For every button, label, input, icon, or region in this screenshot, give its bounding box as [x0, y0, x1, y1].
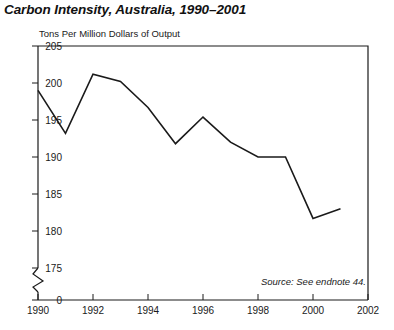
y-tick-label-180: 180: [34, 226, 62, 237]
x-tick-label-2002: 2002: [357, 305, 379, 316]
y-tick-label-205: 205: [34, 41, 62, 52]
x-tick-label-1992: 1992: [82, 305, 104, 316]
y-tick-label-200: 200: [34, 78, 62, 89]
x-axis-ticks: [38, 294, 368, 300]
y-tick-label-195: 195: [34, 115, 62, 126]
carbon-intensity-chart: Carbon Intensity, Australia, 1990–2001 T…: [0, 0, 394, 330]
x-tick-label-1994: 1994: [137, 305, 159, 316]
y-tick-label-0: 0: [34, 295, 62, 306]
y-tick-label-185: 185: [34, 189, 62, 200]
x-tick-label-1990: 1990: [27, 305, 49, 316]
x-tick-label-1996: 1996: [192, 305, 214, 316]
x-tick-label-2000: 2000: [302, 305, 324, 316]
x-tick-label-1998: 1998: [247, 305, 269, 316]
data-series-line: [38, 74, 341, 218]
y-tick-label-175: 175: [34, 263, 62, 274]
y-tick-label-190: 190: [34, 152, 62, 163]
